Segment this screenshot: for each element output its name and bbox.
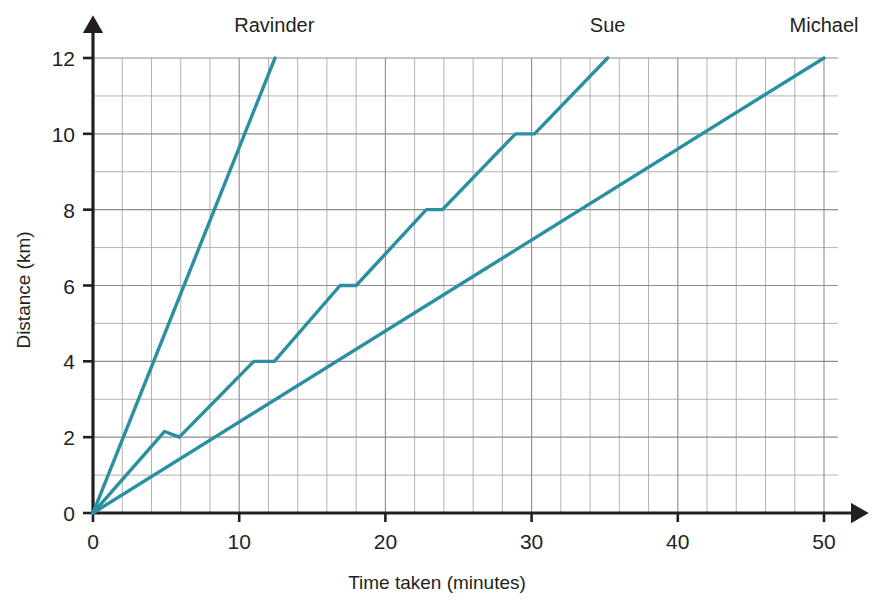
x-axis-title: Time taken (minutes) [348, 572, 526, 593]
series-label-michael: Michael [790, 14, 859, 36]
x-axis-tick-label: 10 [228, 530, 251, 553]
series-labels: RavinderSueMichael [234, 14, 858, 36]
x-axis-tick-label: 40 [666, 530, 689, 553]
x-axis-tick-label: 0 [87, 530, 99, 553]
y-axis-tick-label: 10 [52, 123, 75, 146]
y-axis-tick-label: 2 [63, 426, 75, 449]
x-axis-tick-label: 20 [374, 530, 397, 553]
y-axis-tick-label: 6 [63, 275, 75, 298]
x-axis-tick-label: 30 [520, 530, 543, 553]
series-label-ravinder: Ravinder [234, 14, 314, 36]
y-axis-tick-label: 12 [52, 47, 75, 70]
chart-canvas: 01020304050024681012 RavinderSueMichael … [0, 0, 874, 603]
distance-time-chart: 01020304050024681012 RavinderSueMichael … [0, 0, 874, 603]
series-label-sue: Sue [590, 14, 626, 36]
y-axis-tick-label: 4 [63, 350, 75, 373]
y-axis-title: Distance (km) [13, 231, 34, 348]
y-axis-tick-label: 0 [63, 502, 75, 525]
x-axis-tick-label: 50 [812, 530, 835, 553]
y-axis-tick-label: 8 [63, 199, 75, 222]
